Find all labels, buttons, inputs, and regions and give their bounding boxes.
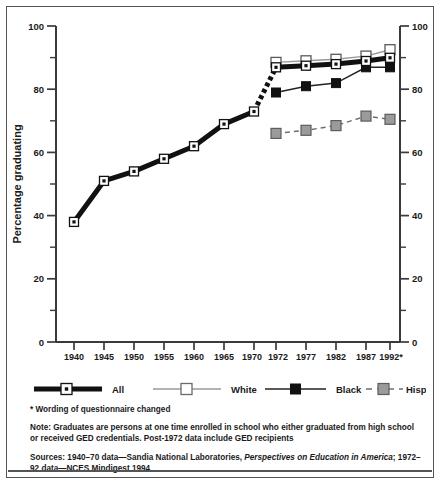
legend-item-hispanic[interactable]: Hispanic [366,384,426,395]
marker-black-1992 [386,63,395,72]
marker-all-1982 [332,60,341,69]
marker-all-1945 [100,176,109,185]
y-right-tick-label-100: 100 [412,21,428,32]
marker-hispanic-1982 [331,121,341,131]
marker-all-1992 [386,53,395,62]
legend-label-black: Black [336,384,362,395]
x-tick-label-1982: 1982 [326,352,346,360]
x-tick-label-1970: 1970 [242,352,262,360]
x-axis: 1940 1945 1950 1955 1960 1965 1970 1972 … [56,342,403,360]
y-axis-right: 100 80 60 40 20 0 [400,21,428,348]
x-tick-label-1977: 1977 [296,352,316,360]
marker-black-1982 [332,79,341,88]
note-definition: Note: Graduates are persons at one time … [30,422,422,444]
sources-label: Sources: [30,453,65,462]
y-right-tick-label-0: 0 [412,337,417,348]
sources-text-1: 1940–70 data—Sandia National Laboratorie… [65,453,244,462]
legend-item-black[interactable]: Black [265,384,362,395]
marker-hispanic-1987 [361,111,371,121]
x-tick-label-1950: 1950 [124,352,144,360]
y-tick-label-80: 80 [33,84,44,95]
marker-hispanic-1972 [271,128,281,138]
marker-all-1955 [160,154,169,163]
marker-black-1972 [272,88,281,97]
marker-black-1977 [302,82,311,91]
y-tick-label-60: 60 [33,147,44,158]
footnote-wording: * Wording of questionnaire changed [30,404,422,415]
y-right-tick-label-40: 40 [412,210,423,221]
x-tick-label-1955: 1955 [154,352,174,360]
legend-label-hispanic: Hispanic [406,384,426,395]
y-tick-label-20: 20 [33,273,44,284]
x-tick-label-1945: 1945 [94,352,114,360]
y-right-tick-label-20: 20 [412,273,423,284]
marker-hispanic-1992 [385,114,395,124]
marker-all-1987 [362,57,371,66]
marker-all-1972 [272,63,281,72]
marker-hispanic-1977 [301,125,311,135]
bottom-divider [8,470,432,472]
legend-label-all: All [112,384,124,395]
marker-all-1940 [70,217,79,226]
chart-svg: 100 80 60 40 20 0 Percentage graduating [0,0,441,360]
figure-container: 100 80 60 40 20 0 Percentage graduating [0,0,441,485]
series-all [70,53,395,226]
y-right-tick-label-80: 80 [412,84,423,95]
y-tick-label-40: 40 [33,210,44,221]
note-label: Note: [30,423,51,432]
sources-italic-title: Perspectives on Education in America [244,453,393,462]
marker-all-1950 [130,167,139,176]
y-tick-label-100: 100 [28,21,44,32]
y-axis-left: 100 80 60 40 20 0 [28,21,56,348]
marker-all-1965 [220,120,229,129]
x-tick-label-1987: 1987 [356,352,376,360]
marker-all-1970 [250,107,259,116]
legend-item-all[interactable]: All [34,384,124,395]
x-tick-label-1965: 1965 [214,352,234,360]
legend-item-white[interactable]: White [153,384,257,395]
x-tick-label-1992: 1992* [379,352,403,360]
x-tick-label-1972: 1972 [268,352,288,360]
marker-all-1960 [190,142,199,151]
legend-label-white: White [231,384,257,395]
y-right-tick-label-60: 60 [412,147,423,158]
plot-area: 100 80 60 40 20 0 Percentage graduating [0,0,441,360]
y-tick-label-0: 0 [39,337,44,348]
marker-all-1977 [302,61,311,70]
series-hispanic [271,111,395,138]
y-axis-title: Percentage graduating [11,124,23,243]
x-tick-label-1960: 1960 [184,352,204,360]
x-tick-label-1940: 1940 [64,352,84,360]
note-body: Graduates are persons at one time enroll… [30,423,414,443]
chart-legend: All White Black Hispanic [26,378,426,400]
